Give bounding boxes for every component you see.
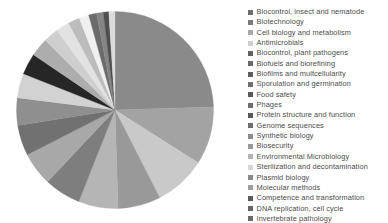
legend-swatch-icon <box>248 154 253 159</box>
legend-item[interactable]: Antimicrobials <box>248 38 388 48</box>
pie-slice[interactable] <box>115 12 213 111</box>
legend-item-label: Biofilms and multcellularity <box>257 69 346 79</box>
legend-item-label: Biosecurity <box>257 141 294 151</box>
legend-item[interactable]: Phages <box>248 100 388 110</box>
legend-item[interactable]: Invertebrate pathology <box>248 214 388 223</box>
legend-swatch-icon <box>248 206 253 211</box>
legend-swatch-icon <box>248 216 253 221</box>
legend-item-label: Antimicrobials <box>257 38 304 48</box>
legend-swatch-icon <box>248 144 253 149</box>
legend-swatch-icon <box>248 10 253 15</box>
legend-item[interactable]: Protein structure and function <box>248 110 388 120</box>
legend-swatch-icon <box>248 51 253 56</box>
legend-item-label: Invertebrate pathology <box>257 214 332 223</box>
legend-swatch-icon <box>248 134 253 139</box>
legend-item-label: Synthetic biology <box>257 131 314 141</box>
legend-item[interactable]: Genome sequences <box>248 121 388 131</box>
legend-item[interactable]: Sterilization and decontamination <box>248 162 388 172</box>
legend-item[interactable]: Biocontrol, insect and nematode <box>248 7 388 17</box>
pie-slice-group <box>17 11 214 208</box>
legend-item-label: Cell biology and metabolism <box>257 28 351 38</box>
chart-legend: Biocontrol, insect and nematodeBiotechno… <box>248 7 388 223</box>
legend-item[interactable]: Cell biology and metabolism <box>248 28 388 38</box>
legend-item[interactable]: Molecular methods <box>248 183 388 193</box>
legend-swatch-icon <box>248 82 253 87</box>
pie-svg <box>16 11 214 209</box>
legend-item[interactable]: DNA replication, cell cycle <box>248 204 388 214</box>
legend-swatch-icon <box>248 113 253 118</box>
legend-item[interactable]: Biofilms and multcellularity <box>248 69 388 79</box>
legend-item-label: Protein structure and function <box>257 110 356 120</box>
legend-item-label: Genome sequences <box>257 121 324 131</box>
legend-swatch-icon <box>248 41 253 46</box>
pie-plot-area <box>16 11 214 209</box>
legend-item[interactable]: Plasmid biology <box>248 173 388 183</box>
legend-item-label: Sterilization and decontamination <box>257 162 368 172</box>
legend-swatch-icon <box>248 103 253 108</box>
legend-item[interactable]: Biosecurity <box>248 141 388 151</box>
legend-item[interactable]: Environmental Microbiology <box>248 152 388 162</box>
legend-item[interactable]: Competence and transformation <box>248 193 388 203</box>
legend-item-label: Phages <box>257 100 283 110</box>
legend-item-label: Competence and transformation <box>257 193 365 203</box>
legend-item[interactable]: Biofuels and biorefining <box>248 59 388 69</box>
legend-item-label: Biocontrol, plant pathogens <box>257 48 349 58</box>
legend-item-label: Molecular methods <box>257 183 321 193</box>
legend-swatch-icon <box>248 61 253 66</box>
legend-item-label: Biocontrol, insect and nematode <box>257 7 365 17</box>
legend-item-label: Biotechnology <box>257 17 304 27</box>
legend-swatch-icon <box>248 123 253 128</box>
legend-swatch-icon <box>248 165 253 170</box>
legend-item-label: Environmental Microbiology <box>257 152 350 162</box>
legend-swatch-icon <box>248 92 253 97</box>
legend-swatch-icon <box>248 175 253 180</box>
legend-item-label: Plasmid biology <box>257 173 310 183</box>
legend-item-label: Food safety <box>257 90 296 100</box>
legend-swatch-icon <box>248 196 253 201</box>
legend-item-label: Sporulation and germination <box>257 79 351 89</box>
legend-item[interactable]: Synthetic biology <box>248 131 388 141</box>
legend-item[interactable]: Food safety <box>248 90 388 100</box>
legend-swatch-icon <box>248 20 253 25</box>
legend-swatch-icon <box>248 30 253 35</box>
legend-swatch-icon <box>248 72 253 77</box>
legend-item[interactable]: Biotechnology <box>248 17 388 27</box>
legend-item-label: Biofuels and biorefining <box>257 59 336 69</box>
legend-item[interactable]: Sporulation and germination <box>248 79 388 89</box>
legend-item-label: DNA replication, cell cycle <box>257 204 344 214</box>
pie-chart-figure: Biocontrol, insect and nematodeBiotechno… <box>0 0 388 223</box>
legend-item[interactable]: Biocontrol, plant pathogens <box>248 48 388 58</box>
legend-swatch-icon <box>248 185 253 190</box>
